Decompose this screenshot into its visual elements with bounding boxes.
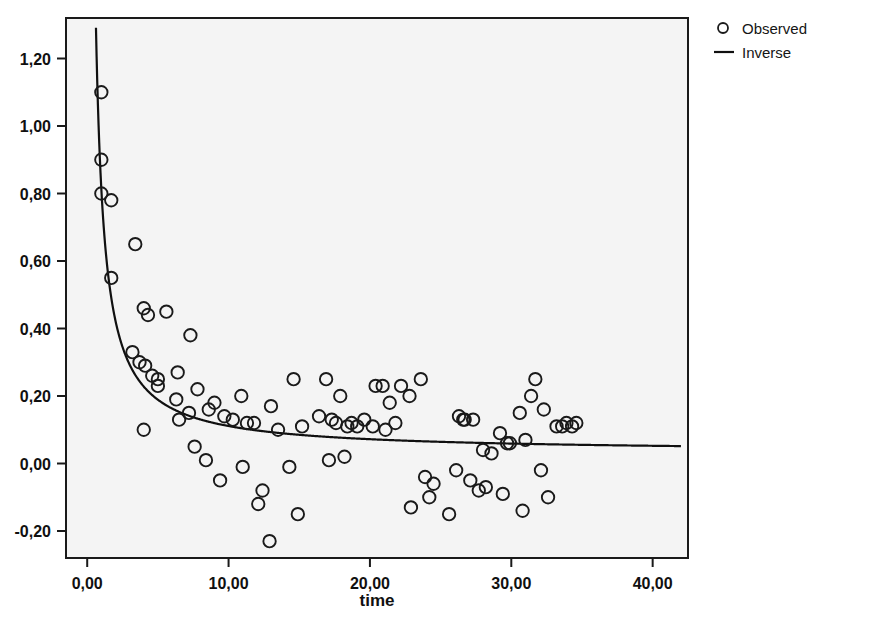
plot-panel: [66, 18, 688, 558]
y-tick-label: 0,40: [20, 321, 51, 338]
y-tick-label: 1,20: [20, 51, 51, 68]
y-tick-label: 0,00: [20, 456, 51, 473]
y-tick-label: 0,60: [20, 253, 51, 270]
regression-scatter-chart: -0,200,000,200,400,600,801,001,20 0,0010…: [0, 0, 874, 630]
y-tick-label: 1,00: [20, 118, 51, 135]
x-tick-label: 40,00: [633, 575, 673, 592]
x-tick-label: 20,00: [350, 575, 390, 592]
y-tick-label: 0,20: [20, 388, 51, 405]
x-tick-label: 10,00: [209, 575, 249, 592]
y-tick-label: 0,80: [20, 186, 51, 203]
x-tick-label: 0,00: [72, 575, 103, 592]
y-tick-label: -0,20: [15, 523, 52, 540]
x-tick-label: 30,00: [491, 575, 531, 592]
x-axis-label: time: [360, 591, 395, 610]
legend-label-observed: Observed: [742, 20, 807, 37]
legend-label-inverse: Inverse: [742, 44, 791, 61]
